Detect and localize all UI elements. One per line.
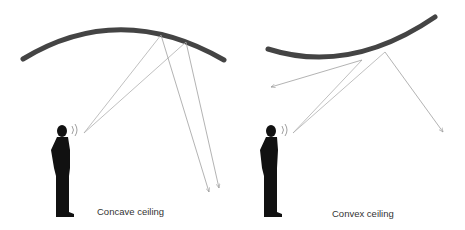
person-silhouette-icon [260, 125, 282, 217]
sound-waves-icon [282, 124, 287, 136]
reflected-ray [385, 52, 443, 132]
person-silhouette-icon [51, 125, 74, 217]
concave-ceiling [23, 30, 224, 60]
incident-ray [84, 35, 161, 133]
convex-panel [260, 17, 443, 217]
reflected-ray [271, 60, 362, 87]
acoustic-reflection-diagram [0, 0, 465, 230]
convex-caption: Convex ceiling [332, 208, 394, 219]
incident-ray [293, 52, 385, 133]
convex-ceiling [268, 17, 435, 57]
concave-caption: Concave ceiling [97, 206, 164, 217]
incident-ray [84, 42, 186, 133]
reflected-ray [186, 42, 219, 188]
sound-waves-icon [72, 124, 77, 136]
concave-panel [23, 30, 224, 217]
incident-ray [293, 60, 362, 133]
